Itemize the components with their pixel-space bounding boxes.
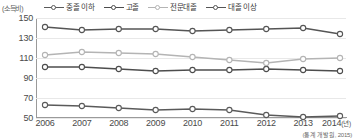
- data-point-marker: [79, 27, 84, 32]
- data-point-marker: [153, 26, 158, 31]
- data-point-marker: [190, 106, 195, 111]
- x-tick-label: 2011: [220, 119, 239, 128]
- data-point-marker: [301, 25, 306, 30]
- x-tick-label: 2012: [257, 119, 276, 128]
- data-point-marker: [264, 60, 269, 65]
- data-point-marker: [264, 112, 269, 117]
- data-point-marker: [190, 54, 195, 59]
- legend-marker-icon: [44, 3, 64, 12]
- data-point-marker: [116, 105, 121, 110]
- y-tick-label: 70: [23, 94, 33, 103]
- y-tick-label: 110: [19, 54, 33, 63]
- data-point-marker: [42, 52, 47, 57]
- y-axis-tick-labels: 507090110130150: [0, 0, 33, 140]
- data-point-marker: [190, 67, 195, 72]
- legend-item[interactable]: 전문대졸: [148, 3, 197, 12]
- data-point-marker: [337, 68, 342, 73]
- legend-marker-icon: [206, 3, 226, 12]
- legend-item[interactable]: 대졸 이상: [206, 3, 257, 12]
- x-tick-label: 2007: [72, 119, 91, 128]
- legend-label: 고졸: [126, 4, 139, 12]
- data-point-marker: [337, 31, 342, 36]
- x-tick-label: 2009: [146, 119, 165, 128]
- data-point-marker: [153, 51, 158, 56]
- data-point-marker: [264, 66, 269, 71]
- series-전문대졸: [42, 49, 342, 65]
- legend-label: 전문대졸: [170, 4, 197, 12]
- data-point-marker: [264, 26, 269, 31]
- data-point-marker: [79, 64, 84, 69]
- plot-area: [36, 18, 346, 118]
- data-point-marker: [116, 50, 121, 55]
- data-point-marker: [337, 55, 342, 60]
- data-point-marker: [116, 26, 121, 31]
- data-point-marker: [153, 68, 158, 73]
- data-point-marker: [116, 66, 121, 71]
- series-layer: [36, 18, 346, 118]
- x-tick-label: 2010: [183, 119, 202, 128]
- legend-marker-icon: [104, 3, 124, 12]
- y-tick-label: 150: [19, 14, 33, 23]
- data-point-marker: [227, 27, 232, 32]
- data-point-marker: [301, 67, 306, 72]
- legend-marker-icon: [148, 3, 168, 12]
- data-point-marker: [42, 24, 47, 29]
- data-point-marker: [79, 103, 84, 108]
- legend-label: 중졸 이하: [66, 4, 95, 12]
- data-point-marker: [301, 56, 306, 61]
- x-axis-tick-labels: 200620072008200920102011201220132014(년): [36, 119, 346, 133]
- data-point-marker: [79, 49, 84, 54]
- source-note: (통계 개발원, 2015): [302, 130, 352, 139]
- series-대졸 이상: [42, 24, 342, 36]
- series-고졸: [42, 64, 342, 73]
- income-ratio-line-chart: (소득비) 중졸 이하고졸전문대졸대졸 이상 507090110130150 2…: [0, 0, 355, 140]
- data-point-marker: [153, 107, 158, 112]
- data-point-marker: [227, 107, 232, 112]
- data-point-marker: [190, 28, 195, 33]
- data-point-marker: [42, 64, 47, 69]
- data-point-marker: [227, 57, 232, 62]
- chart-legend: 중졸 이하고졸전문대졸대졸 이상: [44, 3, 256, 12]
- legend-item[interactable]: 중졸 이하: [44, 3, 95, 12]
- y-tick-label: 130: [19, 34, 33, 43]
- x-tick-label: 2008: [109, 119, 128, 128]
- data-point-marker: [42, 102, 47, 107]
- data-point-marker: [227, 67, 232, 72]
- x-tick-label: 2013: [293, 119, 312, 128]
- y-tick-label: 50: [23, 114, 33, 123]
- x-axis-unit-label: (년): [341, 120, 351, 127]
- x-tick-label: 2006: [35, 119, 54, 128]
- x-tick-label: 2014(년): [322, 119, 351, 128]
- legend-item[interactable]: 고졸: [104, 3, 139, 12]
- y-tick-label: 90: [23, 74, 33, 83]
- legend-label: 대졸 이상: [228, 4, 257, 12]
